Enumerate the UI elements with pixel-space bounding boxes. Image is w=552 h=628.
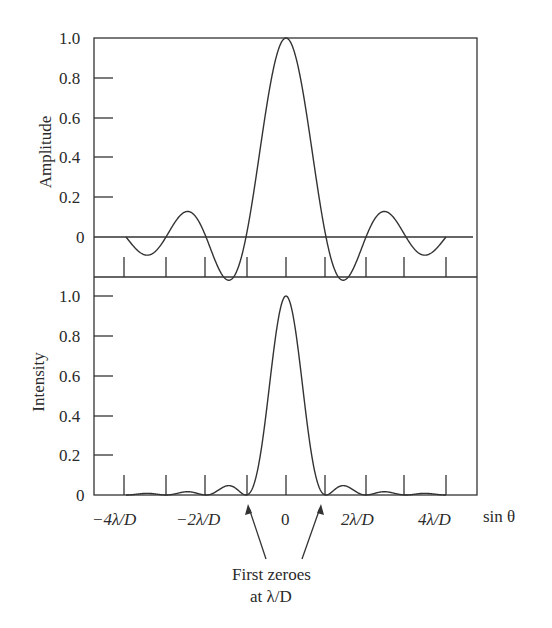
bottom-x-ticks bbox=[124, 475, 446, 495]
amplitude-axis-title: Amplitude bbox=[36, 112, 56, 192]
bottom-y-ticks bbox=[94, 296, 113, 455]
annotation-text: at λ/D bbox=[250, 588, 292, 605]
diffraction-figure bbox=[0, 0, 552, 628]
bottom-ytick-label: 1.0 bbox=[59, 288, 80, 305]
intensity-axis-title: Intensity bbox=[29, 347, 49, 417]
bottom-ytick-label: 0.2 bbox=[59, 447, 80, 464]
top-ytick-label: 0.2 bbox=[59, 189, 80, 206]
top-y-ticks bbox=[94, 78, 113, 197]
top-ytick-label: 0.8 bbox=[59, 70, 80, 87]
xtick-label: −2λ/D bbox=[176, 511, 220, 528]
top-ytick-label: 0.6 bbox=[59, 110, 80, 127]
amplitude-curve bbox=[126, 38, 446, 280]
bottom-ytick-label: 0.4 bbox=[59, 408, 80, 425]
bottom-ytick-label: 0.6 bbox=[59, 368, 80, 385]
top-ytick-label: 0 bbox=[76, 229, 85, 246]
xtick-label: 4λ/D bbox=[418, 511, 451, 528]
top-x-ticks bbox=[124, 257, 446, 277]
xtick-label: −4λ/D bbox=[92, 511, 136, 528]
x-axis-title: sin θ bbox=[483, 508, 515, 525]
xtick-label: 2λ/D bbox=[341, 511, 374, 528]
top-ytick-label: 0.4 bbox=[59, 149, 80, 166]
intensity-curve bbox=[126, 296, 446, 495]
bottom-ytick-label: 0 bbox=[76, 487, 85, 504]
annotation-text: First zeroes bbox=[232, 566, 311, 583]
top-ytick-label: 1.0 bbox=[59, 30, 80, 47]
xtick-label: 0 bbox=[281, 511, 290, 528]
bottom-ytick-label: 0.8 bbox=[59, 328, 80, 345]
